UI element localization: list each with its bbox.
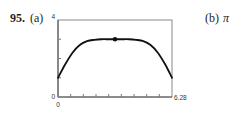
x-min-label: 0	[56, 101, 60, 108]
x-max-label: 6.28	[174, 94, 187, 101]
plot-frame	[58, 20, 172, 97]
y-max-label: 4	[51, 13, 55, 20]
maximum-point-marker	[113, 37, 118, 42]
graph: 4 0 0 6.28	[0, 0, 246, 116]
function-curve	[58, 39, 172, 78]
y-min-label: 0	[51, 93, 55, 100]
